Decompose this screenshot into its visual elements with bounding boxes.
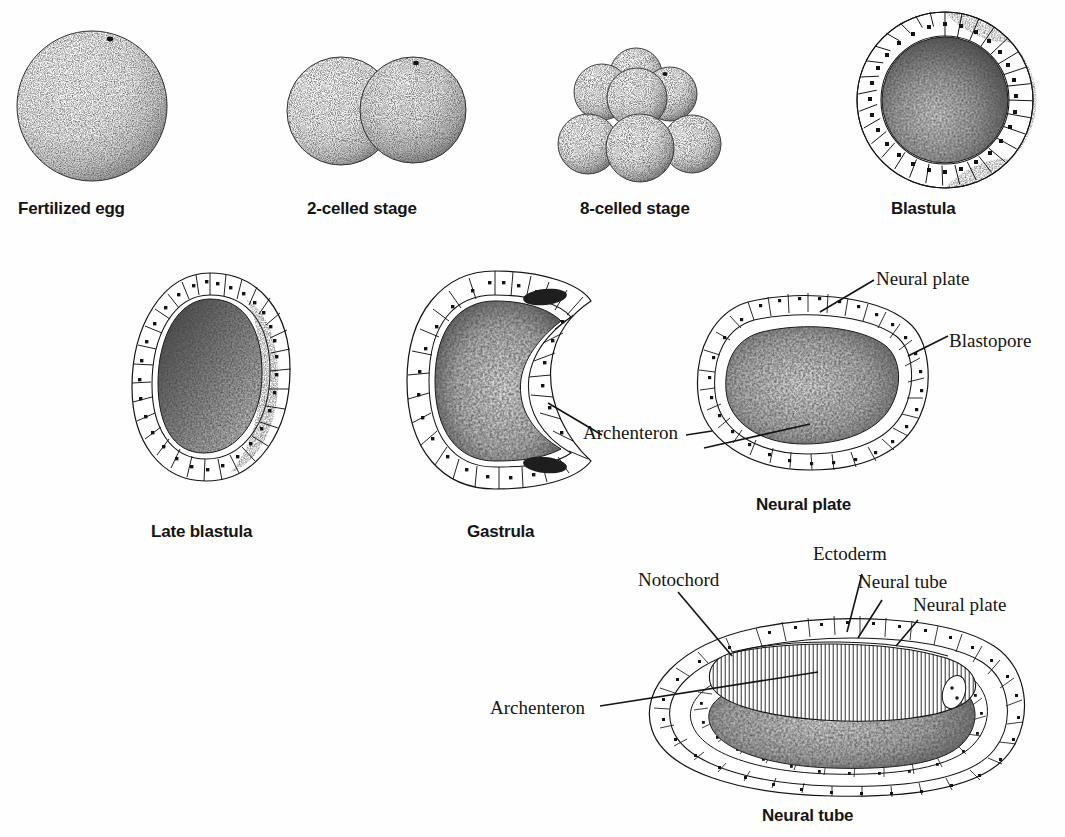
blastomere-group	[558, 48, 721, 182]
stage-caption-two-celled: 2-celled stage	[307, 199, 417, 219]
callout-label-neural-plate-bottom: Neural plate	[913, 594, 1006, 616]
stage-caption-neural-tube: Neural tube	[762, 806, 853, 826]
callout-label-archenteron-gastrula: Archenteron	[583, 422, 678, 444]
fertilized-egg-illustration	[10, 18, 175, 188]
embryonic-development-figure: Fertilized egg 2-c	[0, 0, 1065, 837]
stage-caption-eight-celled: 8-celled stage	[580, 199, 690, 219]
two-celled-stage-illustration	[285, 48, 470, 173]
eight-celled-stage-illustration	[558, 52, 733, 187]
callout-label-blastopore: Blastopore	[949, 330, 1031, 352]
stage-caption-gastrula: Gastrula	[467, 522, 534, 542]
polar-body-icon	[107, 37, 113, 42]
stage-caption-neural-plate: Neural plate	[756, 495, 851, 515]
callout-label-notochord: Notochord	[638, 569, 719, 591]
blastula-illustration	[852, 8, 1042, 193]
callout-label-archenteron-bottom: Archenteron	[490, 697, 585, 719]
stage-caption-late-blastula: Late blastula	[151, 522, 252, 542]
late-blastula-illustration	[118, 265, 323, 495]
gastrula-illustration	[395, 265, 610, 495]
callout-label-neural-plate: Neural plate	[876, 268, 969, 290]
callout-label-ectoderm: Ectoderm	[813, 543, 887, 565]
neural-plate-archenteron-leader	[700, 420, 820, 460]
stage-caption-blastula: Blastula	[891, 199, 956, 219]
polar-body-icon	[413, 61, 419, 65]
callout-label-neural-tube: Neural tube	[858, 571, 947, 593]
stage-caption-fertilized-egg: Fertilized egg	[18, 199, 125, 219]
polar-body-icon	[662, 72, 667, 76]
